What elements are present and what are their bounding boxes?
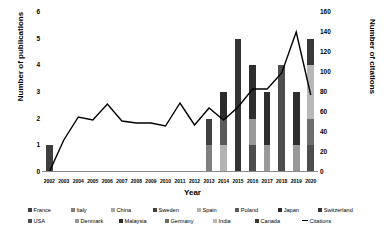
- y-right-tick: 100: [320, 69, 342, 76]
- x-axis-ticks: 2002200320042005200620072008200920102011…: [42, 174, 318, 184]
- legend-label: France: [34, 207, 51, 213]
- y-right-tick: 120: [320, 49, 342, 56]
- x-tick-label: 2016: [245, 178, 260, 184]
- legend-label: China: [117, 207, 132, 213]
- legend-label: Malaysia: [125, 218, 147, 224]
- y-left-tick: 2: [36, 115, 40, 122]
- legend-item-usa[interactable]: USA: [28, 218, 75, 224]
- legend-color-swatch-icon: [278, 208, 282, 212]
- x-tick-label: 2010: [158, 178, 173, 184]
- x-tick-label: 2011: [173, 178, 188, 184]
- x-tick-label: 2018: [274, 178, 289, 184]
- x-tick-label: 2014: [216, 178, 231, 184]
- legend-label: Germany: [171, 218, 194, 224]
- legend-item-china[interactable]: China: [111, 207, 153, 213]
- legend-label: Denmark: [81, 218, 104, 224]
- legend-label: Canada: [261, 218, 281, 224]
- legend-label: USA: [34, 218, 46, 224]
- x-tick-label: 2017: [260, 178, 275, 184]
- plot-area: [42, 12, 318, 172]
- x-tick-label: 2013: [202, 178, 217, 184]
- legend-color-swatch-icon: [197, 208, 201, 212]
- legend-item-sweden[interactable]: Sweden: [153, 207, 197, 213]
- legend-color-swatch-icon: [71, 208, 75, 212]
- legend-color-swatch-icon: [119, 219, 123, 223]
- legend-label: Switzerland: [324, 207, 353, 213]
- legend-item-france[interactable]: France: [28, 207, 71, 213]
- y-right-tick: 60: [320, 109, 342, 116]
- legend-color-swatch-icon: [318, 208, 322, 212]
- x-tick-label: 2003: [57, 178, 72, 184]
- legend-item-india[interactable]: India: [213, 218, 255, 224]
- citations-polyline: [49, 32, 310, 172]
- legend-label: Sweden: [159, 207, 179, 213]
- y-left-tick: 5: [36, 35, 40, 42]
- y-left-tick: 1: [36, 142, 40, 149]
- y-right-tick: 160: [320, 9, 342, 16]
- x-tick-label: 2019: [289, 178, 304, 184]
- legend-color-swatch-icon: [213, 219, 217, 223]
- x-axis-line: [42, 171, 318, 172]
- x-tick-label: 2008: [129, 178, 144, 184]
- legend-color-swatch-icon: [28, 208, 32, 212]
- legend-item-malaysia[interactable]: Malaysia: [119, 218, 165, 224]
- legend-label: India: [219, 218, 231, 224]
- y-left-tick: 0: [36, 169, 40, 176]
- legend-item-spain[interactable]: Spain: [197, 207, 235, 213]
- x-tick-label: 2020: [303, 178, 318, 184]
- x-tick-label: 2007: [115, 178, 130, 184]
- y-axis-right-title: Number of citations: [368, 11, 377, 103]
- legend-color-swatch-icon: [165, 219, 169, 223]
- legend-label: Citations: [310, 218, 332, 224]
- legend-row-2: USADenmarkMalaysiaGermanyIndiaCanadaCita…: [28, 215, 364, 226]
- legend-color-swatch-icon: [75, 219, 79, 223]
- legend-label: Poland: [241, 207, 258, 213]
- y-right-tick: 20: [320, 149, 342, 156]
- x-tick-label: 2005: [86, 178, 101, 184]
- y-left-tick: 3: [36, 89, 40, 96]
- legend-color-swatch-icon: [28, 219, 32, 223]
- x-tick-label: 2009: [144, 178, 159, 184]
- chart-legend: FranceItalyChinaSwedenSpainPolandJapanSw…: [28, 204, 364, 226]
- legend-color-swatch-icon: [255, 219, 259, 223]
- legend-item-japan[interactable]: Japan: [278, 207, 318, 213]
- x-tick-label: 2002: [42, 178, 57, 184]
- x-tick-label: 2006: [100, 178, 115, 184]
- x-axis-title: Year: [0, 188, 385, 197]
- legend-color-swatch-icon: [235, 208, 239, 212]
- y-right-tick: 80: [320, 89, 342, 96]
- x-tick-label: 2015: [231, 178, 246, 184]
- x-tick-label: 2012: [187, 178, 202, 184]
- y-axis-left-ticks: 0123456: [22, 12, 40, 172]
- legend-item-citations[interactable]: Citations: [302, 218, 352, 224]
- legend-item-denmark[interactable]: Denmark: [75, 218, 119, 224]
- y-left-tick: 4: [36, 62, 40, 69]
- legend-item-poland[interactable]: Poland: [235, 207, 278, 213]
- legend-label: Italy: [76, 207, 86, 213]
- legend-color-swatch-icon: [111, 208, 115, 212]
- citations-line-series: [42, 12, 318, 172]
- legend-label: Japan: [284, 207, 299, 213]
- legend-item-germany[interactable]: Germany: [165, 218, 213, 224]
- y-axis-right-ticks: 020406080100120140160: [320, 12, 342, 172]
- legend-color-swatch-icon: [153, 208, 157, 212]
- legend-row-1: FranceItalyChinaSwedenSpainPolandJapanSw…: [28, 204, 364, 215]
- y-right-tick: 140: [320, 29, 342, 36]
- legend-item-italy[interactable]: Italy: [71, 207, 111, 213]
- x-tick-label: 2004: [71, 178, 86, 184]
- legend-item-canada[interactable]: Canada: [255, 218, 302, 224]
- y-left-tick: 6: [36, 9, 40, 16]
- legend-label: Spain: [202, 207, 216, 213]
- legend-item-switzerland[interactable]: Switzerland: [318, 207, 364, 213]
- legend-line-swatch-icon: [302, 220, 308, 222]
- y-right-tick: 40: [320, 129, 342, 136]
- publications-citations-chart: Number of publications Number of citatio…: [0, 0, 385, 238]
- y-right-tick: 0: [320, 169, 342, 176]
